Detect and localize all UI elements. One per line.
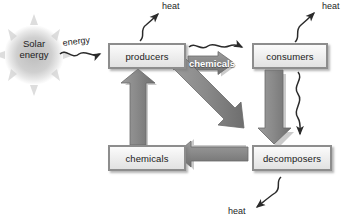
arrow-consumers-to-heat [295,13,314,42]
diagram-canvas: Solar energy producers consumers decompo… [0,0,350,223]
arrow-decomposers-to-heat [257,177,281,207]
heat-label-right: heat [322,1,340,11]
arrow-producers-to-heat [140,14,158,41]
arrow-consumers-to-decomposers-wavy [296,72,300,134]
arrow-decomposers-to-chemicals [176,141,248,167]
node-consumers-label: consumers [266,51,313,62]
diagram-vector-layer [0,0,350,223]
heat-label-top: heat [162,1,180,11]
arrow-producers-to-consumers-wavy [189,44,242,47]
arrow-consumers-to-decomposers [258,70,291,144]
node-decomposers-label: decomposers [263,153,321,164]
solar-energy-line1: Solar [6,38,62,49]
node-chemicals[interactable]: chemicals [108,145,186,171]
node-producers[interactable]: producers [108,43,186,69]
node-producers-label: producers [125,51,168,62]
solar-energy-line2: energy [6,49,62,60]
node-consumers[interactable]: consumers [252,43,328,69]
node-chemicals-label: chemicals [125,153,168,164]
heat-label-bottom: heat [228,206,246,216]
edge-label-chemicals: chemicals [189,58,235,69]
arrow-chemicals-to-producers [121,69,155,145]
solar-energy-label: Solar energy [6,38,62,60]
node-decomposers[interactable]: decomposers [252,145,332,171]
